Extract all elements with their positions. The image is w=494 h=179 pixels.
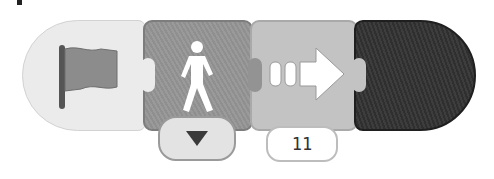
steps-number-field[interactable]: 11 — [266, 126, 338, 162]
flag-icon — [57, 43, 123, 111]
direction-dropdown[interactable] — [158, 116, 236, 161]
connector-notch — [141, 58, 155, 92]
start-flag-block[interactable] — [22, 20, 146, 131]
walk-block[interactable] — [143, 20, 253, 131]
connector-notch — [248, 58, 262, 92]
end-block[interactable] — [354, 20, 476, 131]
cropped-mark — [17, 0, 22, 5]
connector-notch — [352, 58, 366, 92]
dropdown-triangle-icon — [186, 131, 208, 146]
walking-person-icon — [175, 40, 219, 114]
move-forward-arrow-icon — [268, 46, 348, 102]
move-forward-block[interactable] — [250, 20, 358, 131]
